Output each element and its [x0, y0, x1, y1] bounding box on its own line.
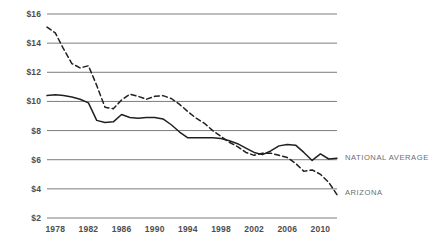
x-tick-label-1978: 1978	[38, 224, 72, 234]
x-tick-label-2010: 2010	[303, 224, 337, 234]
series-label-arizona: ARIZONA	[345, 188, 383, 197]
gridlines-group	[47, 14, 337, 218]
y-tick-label-4: $4	[0, 184, 41, 194]
y-tick-label-6: $6	[0, 155, 41, 165]
series-label-national-average: NATIONAL AVERAGE	[345, 153, 429, 162]
x-tick-label-2002: 2002	[237, 224, 271, 234]
x-tick-label-1990: 1990	[138, 224, 172, 234]
y-tick-label-2: $2	[0, 213, 41, 223]
x-tick-label-1982: 1982	[71, 224, 105, 234]
series-line-arizona	[47, 27, 337, 195]
series-line-national-average	[47, 95, 337, 161]
y-tick-label-12: $12	[0, 67, 41, 77]
y-tick-label-14: $14	[0, 38, 41, 48]
y-tick-label-16: $16	[0, 9, 41, 19]
x-tick-label-1998: 1998	[204, 224, 238, 234]
x-tick-label-2006: 2006	[270, 224, 304, 234]
y-tick-label-10: $10	[0, 96, 41, 106]
y-tick-label-8: $8	[0, 126, 41, 136]
series-lines-group	[47, 27, 337, 195]
x-tick-label-1986: 1986	[105, 224, 139, 234]
figure-caption	[8, 243, 423, 252]
x-tick-label-1994: 1994	[171, 224, 205, 234]
